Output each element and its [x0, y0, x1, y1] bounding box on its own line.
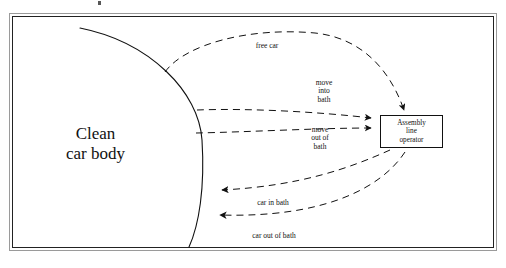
diagram-canvas: Clean car body free car move into bath m…	[0, 0, 506, 268]
clean-car-body-label: Clean car body	[18, 124, 173, 164]
flow-label-car-in-bath: car in bath	[237, 199, 309, 207]
flow-label-move-out-of-bath-line3: bath	[285, 143, 355, 151]
flow-label-free-car-text: free car	[232, 42, 302, 50]
flow-label-car-out-of-bath-text: car out of bath	[230, 232, 318, 240]
assembly-line-operator-line2: line	[406, 127, 417, 135]
assembly-line-operator-box: Assembly line operator	[380, 115, 443, 148]
clean-car-body-label-line2: car body	[18, 144, 173, 164]
flow-car-in-bath-line	[222, 150, 390, 190]
flow-label-car-out-of-bath: car out of bath	[230, 232, 318, 240]
assembly-line-operator-line3: operator	[400, 136, 424, 144]
assembly-line-operator-line1: Assembly	[397, 119, 426, 127]
flow-label-free-car: free car	[232, 42, 302, 50]
flow-label-move-into-bath-line3: bath	[289, 96, 359, 104]
flow-move-into-bath-line	[197, 109, 371, 118]
flow-label-move-into-bath: move into bath	[289, 79, 359, 104]
flow-label-move-out-of-bath: move out of bath	[285, 126, 355, 151]
clean-car-body-label-line1: Clean	[18, 124, 173, 144]
flow-label-car-in-bath-text: car in bath	[237, 199, 309, 207]
